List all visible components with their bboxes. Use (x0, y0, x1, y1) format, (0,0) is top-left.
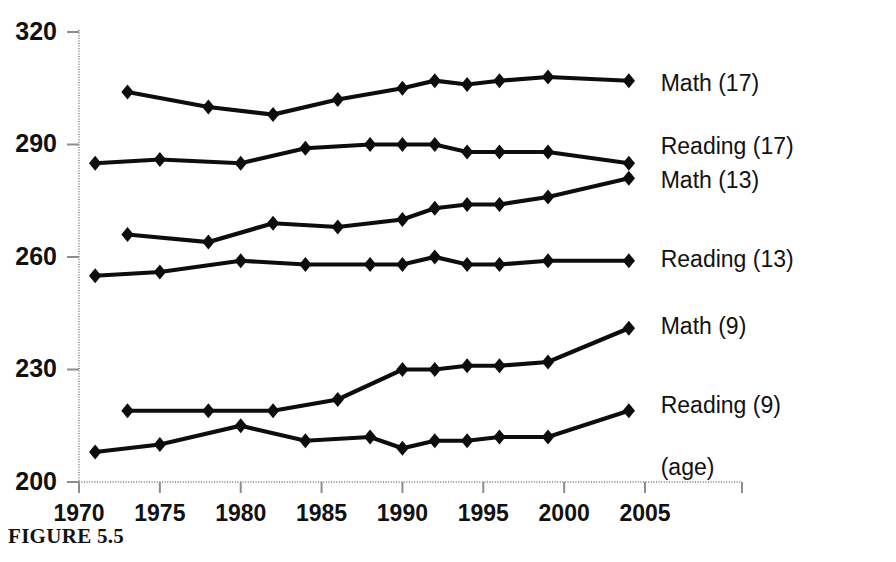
data-point-marker (461, 77, 473, 92)
data-point-marker (461, 358, 473, 373)
data-point-marker (89, 156, 101, 171)
figure-caption: FIGURE 5.5 (8, 524, 124, 549)
data-point-marker (623, 156, 635, 171)
data-point-marker (429, 362, 441, 377)
data-point-marker (332, 392, 344, 407)
data-point-marker (267, 403, 279, 418)
series-label: Reading (17) (661, 133, 794, 159)
data-point-marker (493, 257, 505, 272)
series-line (128, 77, 629, 115)
data-point-marker (623, 73, 635, 88)
data-point-marker (461, 433, 473, 448)
y-axis-tick-label: 290 (15, 129, 57, 157)
series-line (128, 328, 629, 411)
data-point-marker (493, 430, 505, 445)
data-point-marker (493, 358, 505, 373)
y-axis-tick-label: 320 (15, 17, 57, 45)
x-axis-tick-label: 1980 (215, 500, 266, 526)
data-point-marker (623, 321, 635, 336)
data-point-marker (542, 430, 554, 445)
series-line (128, 178, 629, 242)
data-point-marker (461, 197, 473, 212)
data-point-marker (542, 190, 554, 205)
data-point-marker (299, 257, 311, 272)
data-point-marker (154, 152, 166, 167)
data-point-marker (623, 403, 635, 418)
data-point-marker (542, 70, 554, 85)
series-group (89, 250, 635, 284)
x-axis-tick-label: 1985 (296, 500, 347, 526)
data-point-marker (235, 253, 247, 268)
data-point-marker (332, 92, 344, 107)
x-axis-tick-label: 1995 (458, 500, 509, 526)
data-point-marker (332, 220, 344, 235)
series-label: Math (17) (661, 70, 759, 96)
data-point-marker (429, 137, 441, 152)
data-point-marker (154, 265, 166, 280)
x-axis-tick-label: 1970 (53, 500, 104, 526)
data-point-marker (623, 253, 635, 268)
data-point-marker (235, 156, 247, 171)
data-point-marker (493, 145, 505, 160)
data-point-marker (267, 107, 279, 122)
x-axis-tick-label: 2005 (619, 500, 670, 526)
data-point-marker (461, 257, 473, 272)
data-point-marker (542, 145, 554, 160)
age-annotation: (age) (661, 454, 715, 480)
series-label: Math (9) (661, 313, 747, 339)
series-group (89, 137, 635, 171)
data-point-marker (396, 257, 408, 272)
data-point-marker (493, 73, 505, 88)
data-point-marker (89, 268, 101, 283)
data-point-marker (542, 355, 554, 370)
series-label: Math (13) (661, 167, 759, 193)
data-point-marker (299, 433, 311, 448)
series-group (121, 171, 635, 250)
series-labels-layer: Math (17)Reading (17)Math (13)Reading (1… (661, 70, 794, 480)
data-point-marker (267, 216, 279, 231)
data-point-marker (429, 73, 441, 88)
data-point-marker (299, 141, 311, 156)
data-point-marker (121, 85, 133, 100)
data-point-marker (542, 253, 554, 268)
data-point-marker (396, 212, 408, 227)
data-point-marker (493, 197, 505, 212)
data-point-marker (623, 171, 635, 186)
x-axis-tick-label: 2000 (539, 500, 590, 526)
data-point-marker (396, 362, 408, 377)
data-point-marker (202, 235, 214, 250)
data-point-marker (461, 145, 473, 160)
figure-container: Math (17)Reading (17)Math (13)Reading (1… (0, 0, 896, 562)
data-point-marker (364, 430, 376, 445)
data-point-marker (154, 437, 166, 452)
data-point-marker (429, 433, 441, 448)
series-group (121, 70, 635, 122)
series-label: Reading (13) (661, 246, 794, 272)
data-point-marker (364, 257, 376, 272)
x-axis-tick-label: 1975 (134, 500, 185, 526)
data-point-marker (364, 137, 376, 152)
data-point-marker (429, 201, 441, 216)
data-point-marker (121, 227, 133, 242)
x-axis-tick-label: 1990 (377, 500, 428, 526)
data-point-marker (121, 403, 133, 418)
series-group (121, 321, 635, 418)
data-point-marker (202, 403, 214, 418)
data-point-marker (396, 137, 408, 152)
line-chart: Math (17)Reading (17)Math (13)Reading (1… (0, 0, 896, 562)
data-point-marker (202, 100, 214, 115)
data-point-marker (235, 418, 247, 433)
y-axis-tick-label: 260 (15, 242, 57, 270)
series-layer (89, 70, 635, 460)
data-point-marker (429, 250, 441, 265)
y-axis-tick-label: 230 (15, 354, 57, 382)
data-point-marker (396, 441, 408, 456)
series-label: Reading (9) (661, 392, 781, 418)
data-point-marker (396, 81, 408, 96)
y-axis-tick-label: 200 (15, 467, 57, 495)
data-point-marker (89, 445, 101, 460)
